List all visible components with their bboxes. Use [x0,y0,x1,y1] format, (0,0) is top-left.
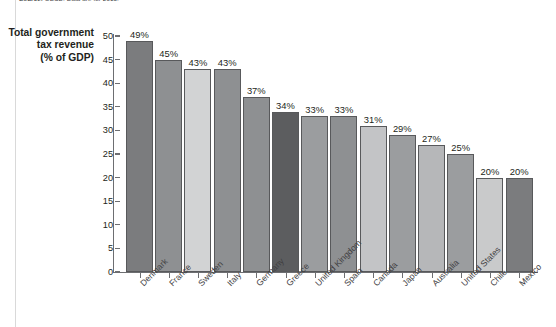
bar-value-label: 43% [208,57,247,68]
y-axis-tick-label: 10 [103,220,113,230]
page-canvas: Source: OECD. Data are for 2015. Total g… [0,0,556,327]
y-axis-tick-mark [115,106,120,107]
bar-value-label: 25% [441,142,480,153]
bar-column[interactable]: 20% [506,178,533,272]
bar-rect[interactable] [418,145,445,272]
y-axis-tick: 25 [92,149,120,159]
y-axis-tick: 35 [92,102,120,112]
bar-value-label: 49% [120,29,159,40]
y-axis-tick-mark [115,130,120,131]
y-axis-title: Total government tax revenue (% of GDP) [8,27,94,64]
y-axis-tick: 10 [92,220,120,230]
y-axis-tick: 20 [92,173,120,183]
y-axis-tick: 45 [92,55,120,65]
y-axis-tick-label: 25 [103,149,113,159]
bar-column[interactable]: 31% [360,126,387,272]
bar-rect[interactable] [506,178,533,272]
bar-rect[interactable] [243,97,270,272]
y-axis-tick-label: 40 [103,78,113,88]
y-axis-tick-mark [115,177,120,178]
y-axis-title-line-3: (% of GDP) [8,52,94,64]
y-axis-tick-label: 15 [103,196,113,206]
bar-column[interactable]: 33% [301,116,328,272]
y-axis-tick-mark [115,83,120,84]
bar-rect[interactable] [360,126,387,272]
bar-rect[interactable] [184,69,211,272]
bar-column[interactable]: 37% [243,97,270,272]
bar-rect[interactable] [301,116,328,272]
y-axis-tick: 40 [92,78,120,88]
bar-column[interactable]: 27% [418,145,445,272]
bar-rect[interactable] [126,41,153,272]
bar-column[interactable]: 49% [126,41,153,272]
y-axis-tick-mark [115,201,120,202]
y-axis-tick-mark [115,224,120,225]
y-axis-title-line-2: tax revenue [8,39,94,51]
bar-value-label: 37% [237,85,276,96]
bar-column[interactable]: 43% [184,69,211,272]
y-axis-tick-label: 35 [103,102,113,112]
bar-rect[interactable] [272,112,299,272]
y-axis-tick-label: 30 [103,125,113,135]
y-axis-tick-label: 0 [108,267,113,277]
y-axis-tick: 5 [92,243,120,253]
y-axis-tick-label: 50 [103,31,113,41]
y-axis-tick: 30 [92,125,120,135]
bar-value-label: 20% [500,166,539,177]
y-axis-tick-label: 45 [103,55,113,65]
y-axis-title-line-1: Total government [8,27,94,39]
y-axis-tick: 15 [92,196,120,206]
bar-column[interactable]: 45% [155,60,182,272]
bar-rect[interactable] [155,60,182,272]
y-axis-tick-label: 5 [108,243,113,253]
bar-rect[interactable] [214,69,241,272]
y-axis-tick: 50 [92,31,120,41]
bar-column[interactable]: 34% [272,112,299,272]
y-axis-tick-label: 20 [103,173,113,183]
y-axis-tick-mark [115,248,120,249]
bar-rect[interactable] [389,135,416,272]
bar-column[interactable]: 43% [214,69,241,272]
y-axis-tick-mark [115,271,120,272]
bar-chart: Total government tax revenue (% of GDP) … [0,0,556,327]
bar-column[interactable]: 29% [389,135,416,272]
y-axis-tick-mark [115,59,120,60]
y-axis-tick-mark [115,153,120,154]
y-axis-tick: 0 [92,267,120,277]
